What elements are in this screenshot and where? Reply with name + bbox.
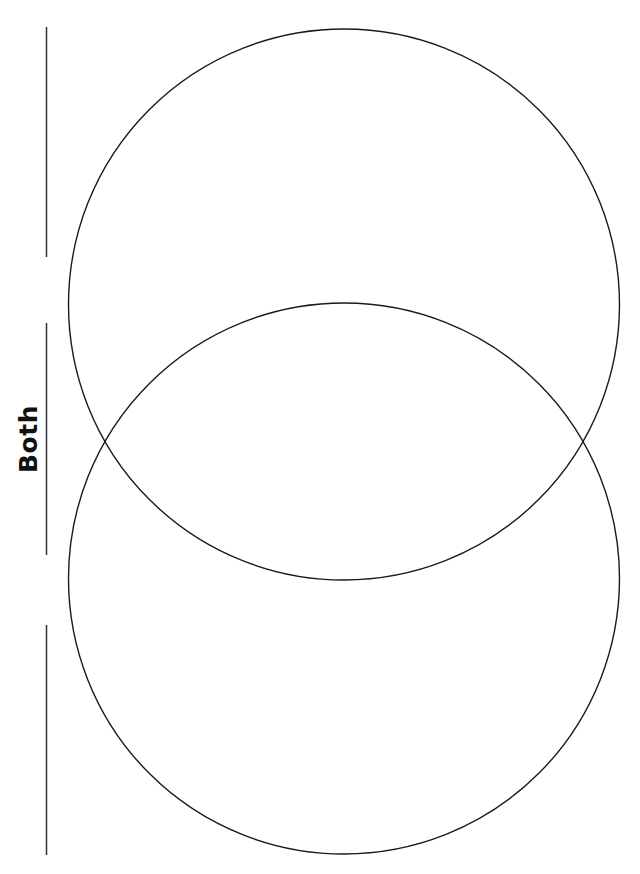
- top-circle[interactable]: [69, 29, 620, 580]
- bottom-circle[interactable]: [69, 303, 620, 854]
- venn-diagram: [0, 0, 640, 874]
- both-label: Both: [14, 405, 43, 473]
